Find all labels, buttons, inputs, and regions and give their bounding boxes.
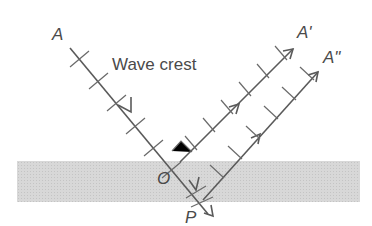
label-a-double-prime: A": [322, 48, 341, 67]
label-wave-crest: Wave crest: [112, 55, 197, 74]
right-angle-marker: [172, 141, 192, 152]
label-a-prime: A': [296, 23, 312, 42]
label-o: O: [157, 169, 170, 188]
label-a: A: [51, 25, 63, 44]
reflection-diagram: A Wave crest A' A" O P: [0, 0, 372, 226]
reflected-ray-1: [180, 46, 293, 162]
label-p: P: [185, 208, 197, 226]
arrow-head-icon: [118, 97, 131, 112]
